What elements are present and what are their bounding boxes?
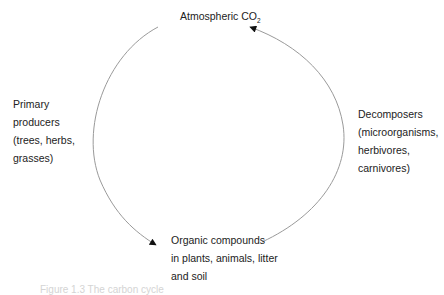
decomposers-line: Decomposers bbox=[358, 105, 439, 123]
primary-producers-line: (trees, herbs, bbox=[13, 131, 75, 149]
figure-caption: Figure 1.3 The carbon cycle bbox=[40, 284, 164, 295]
decomposers-line: (microorganisms, bbox=[358, 123, 439, 141]
atmospheric-co2-node: Atmospheric CO2 bbox=[180, 10, 261, 24]
organic-compounds-node: Organic compounds in plants, animals, li… bbox=[171, 231, 278, 285]
primary-producers-line: Primary bbox=[13, 95, 75, 113]
co2-subscript: 2 bbox=[257, 17, 261, 24]
decomposers-line: herbivores, bbox=[358, 141, 439, 159]
decomposers-node: Decomposers (microorganisms, herbivores,… bbox=[358, 105, 439, 177]
organic-compounds-line: Organic compounds bbox=[171, 231, 278, 249]
atmospheric-co2-label: Atmospheric CO bbox=[180, 10, 257, 22]
organic-compounds-line: in plants, animals, litter bbox=[171, 249, 278, 267]
primary-producers-node: Primary producers (trees, herbs, grasses… bbox=[13, 95, 75, 167]
decomposers-line: carnivores) bbox=[358, 159, 439, 177]
left-arc-arrow bbox=[93, 27, 158, 245]
right-arc-arrow bbox=[250, 27, 344, 242]
organic-compounds-line: and soil bbox=[171, 267, 278, 285]
primary-producers-line: producers bbox=[13, 113, 75, 131]
primary-producers-line: grasses) bbox=[13, 149, 75, 167]
